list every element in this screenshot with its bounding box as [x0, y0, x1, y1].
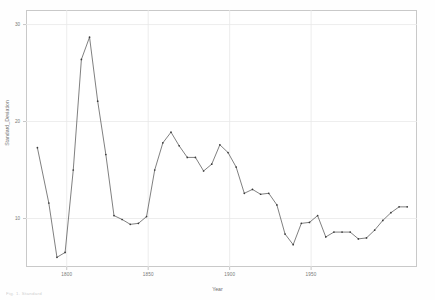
x-tick-label: 1900 [221, 272, 239, 277]
data-series-line [37, 37, 407, 257]
chart-canvas [0, 0, 435, 300]
y-tick-label: 30 [6, 22, 20, 27]
gridlines [26, 10, 417, 267]
x-tick-label: 1800 [58, 272, 76, 277]
chart-figure: Standard_Deviation Year 102030 180018501… [0, 0, 435, 300]
y-tick-label: 20 [6, 119, 20, 124]
y-tick-label: 10 [6, 216, 20, 221]
figure-caption-fragment: Fig. 1. Standard [6, 291, 146, 296]
x-tick-label: 1950 [302, 272, 320, 277]
x-tick-label: 1850 [139, 272, 157, 277]
tick-marks [23, 25, 311, 270]
